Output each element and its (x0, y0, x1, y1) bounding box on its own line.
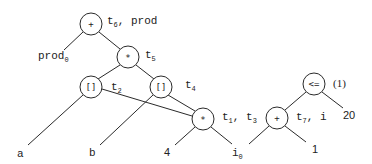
leaf-a: a (17, 148, 24, 160)
node-mul-t1-t3: * t1, t3 (192, 108, 257, 130)
leaf-prod0: prod0 (38, 50, 69, 64)
leaf-i0: i0 (232, 147, 243, 161)
edge-plus-t7-to-i0 (249, 126, 269, 144)
op-plus: + (274, 113, 280, 123)
edge-idx-t2-to-a (28, 95, 83, 145)
node-plus-t7-i: + t7, i (266, 107, 327, 129)
node-plus-t6-prod: + t6, prod (80, 13, 157, 35)
op-index: [] (156, 82, 167, 92)
edge-mul-t1t3-to-i0 (211, 127, 232, 144)
edge-le-to-20 (322, 92, 343, 108)
node-label-t7-i: t7, i (296, 111, 327, 125)
node-index-t4: [] t4 (150, 76, 196, 98)
edge-plus-to-prod0 (64, 32, 83, 50)
node-label-t5: t5 (145, 49, 156, 63)
node-le: <= (1) (303, 73, 346, 95)
leaf-4: 4 (164, 146, 170, 158)
edge-plus-t7-to-1 (285, 126, 306, 142)
node-label-t6-prod: t6, prod (107, 15, 157, 29)
edge-mul-t1t3-to-4 (175, 127, 195, 145)
node-index-t2: [] t2 (80, 76, 122, 98)
edge-plus-to-mul-t5 (99, 32, 120, 49)
op-mul: * (200, 115, 205, 125)
op-less-equal: <= (309, 79, 320, 89)
node-label-t2: t2 (111, 81, 122, 95)
edge-mul-t5-to-idx-t2 (98, 65, 120, 79)
edge-idx-t4-to-b (100, 95, 153, 145)
leaf-b: b (89, 147, 96, 159)
edge-idx-t4-to-mul-t1t3 (168, 95, 195, 111)
expression-dag-diagram: + t6, prod * t5 [] t2 [] t4 * t1, t3 <= … (0, 0, 372, 164)
node-mul-t5: * t5 (117, 46, 156, 68)
edge-mul-t5-to-idx-t4 (136, 65, 154, 79)
leaf-20: 20 (343, 109, 355, 121)
op-index: [] (86, 82, 97, 92)
node-label-1: (1) (333, 77, 346, 90)
node-label-t1-t3: t1, t3 (222, 111, 257, 125)
edge-idx-t2-to-mul-t1t3 (102, 89, 192, 116)
op-mul: * (125, 53, 130, 63)
op-plus: + (88, 19, 94, 29)
node-label-t4: t4 (185, 79, 196, 93)
edge-le-to-plus-t7 (285, 92, 306, 110)
leaf-1: 1 (312, 143, 318, 155)
